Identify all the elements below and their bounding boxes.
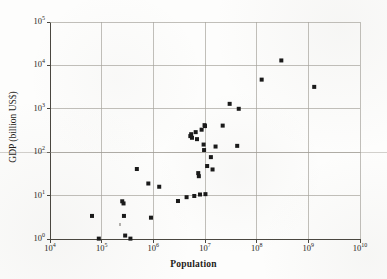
scatter-plot-figure: 1041051061071081091010100101102103104105… [0,0,387,279]
data-point-marker [192,194,196,198]
data-point-marker [189,132,193,136]
gridlines [50,22,360,239]
data-point-marker [157,185,161,189]
data-point-marker [203,124,207,128]
x-tick-label: 1010 [340,244,380,253]
data-point-marker [97,237,101,241]
x-tick-label: 107 [185,244,225,253]
data-point-marker [235,144,239,148]
plot-canvas [0,0,387,279]
data-point-marker [279,58,283,62]
data-point-marker [237,107,241,111]
y-tick-label: 105 [3,17,45,26]
data-point-marker [260,78,264,82]
data-point-marker [135,167,139,171]
data-point-marker [195,137,199,141]
data-point-marker [149,216,153,220]
data-point-marker [214,145,218,149]
data-point-marker [221,124,225,128]
axis-ticks [47,22,361,243]
data-point-marker [197,174,201,178]
data-point-marker [209,155,213,159]
data-point-marker [185,195,189,199]
x-tick-label: 108 [237,244,277,253]
data-point-marker [198,193,202,197]
data-point-marker [90,214,94,218]
data-point-marker [176,199,180,203]
data-points [90,58,316,240]
data-point-marker [194,130,198,134]
data-point-marker [202,148,206,152]
data-point-marker [200,128,204,132]
data-point-marker [228,102,232,106]
data-point-marker [211,167,215,171]
x-axis-title: Population [0,259,387,269]
data-point-marker [202,143,206,147]
x-tick-label: 109 [288,244,328,253]
data-point-marker [123,234,127,238]
x-tick-label: 105 [82,244,122,253]
data-point-marker [122,214,126,218]
data-point-marker [122,201,126,205]
data-point-marker [146,182,150,186]
y-axis-title: GDP (billion US$) [8,52,18,202]
y-tick-label: 100 [3,234,45,243]
data-point-marker [128,237,132,241]
data-point-marker [190,136,194,140]
data-point-marker [203,192,207,196]
x-tick-label: 104 [30,244,70,253]
x-tick-label: 106 [133,244,173,253]
data-point-marker [312,85,316,89]
data-point-marker [205,164,209,168]
